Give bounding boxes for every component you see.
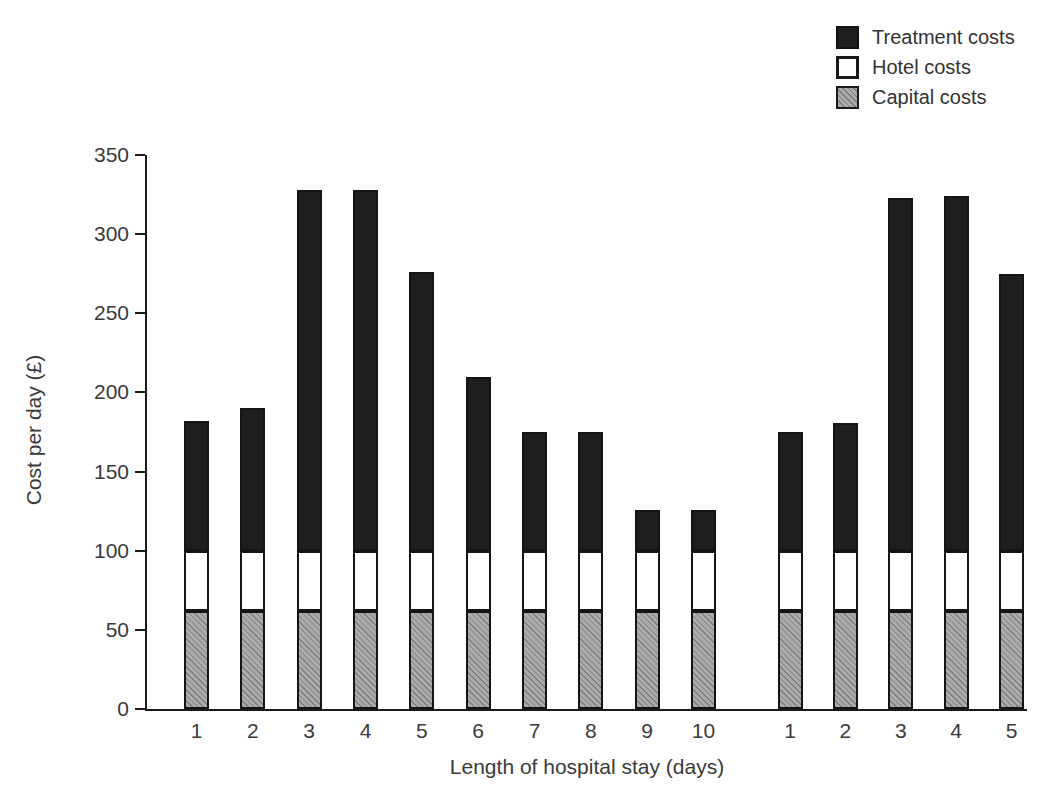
y-tick-mark: [135, 708, 145, 710]
hotel-costs-segment: [833, 551, 858, 611]
y-tick-mark: [135, 233, 145, 235]
plot-area: 050100150200250300350 1234567891012345 C…: [145, 155, 1027, 711]
treatment-costs-segment: [184, 421, 209, 551]
x-tick-label: 1: [768, 719, 812, 743]
x-tick-label: 4: [343, 719, 387, 743]
y-tick-mark: [135, 471, 145, 473]
legend-item-capital: Capital costs: [836, 86, 1015, 109]
hotel-costs-segment: [353, 551, 378, 611]
x-tick-label: 5: [400, 719, 444, 743]
y-tick-label: 250: [69, 302, 129, 324]
capital-costs-segment: [184, 611, 209, 709]
capital-costs-segment: [691, 611, 716, 709]
capital-costs-segment: [635, 611, 660, 709]
y-tick-mark: [135, 391, 145, 393]
legend-item-treatment: Treatment costs: [836, 26, 1015, 49]
capital-costs-segment: [466, 611, 491, 709]
hotel-costs-swatch-icon: [836, 56, 859, 79]
stacked-bar-day-3-group-1: [297, 190, 322, 709]
y-tick-label: 300: [69, 223, 129, 245]
y-tick-label: 0: [69, 698, 129, 720]
y-tick-mark: [135, 629, 145, 631]
capital-costs-segment: [409, 611, 434, 709]
hotel-costs-segment: [999, 551, 1024, 611]
stacked-bar-day-5-group-2: [999, 274, 1024, 709]
capital-costs-segment: [353, 611, 378, 709]
treatment-costs-segment: [522, 432, 547, 551]
stacked-bar-day-1-group-1: [184, 421, 209, 709]
legend-label-hotel: Hotel costs: [872, 56, 971, 79]
x-tick-label: 10: [681, 719, 725, 743]
stacked-bar-day-2-group-2: [833, 423, 858, 709]
treatment-costs-segment: [888, 198, 913, 551]
hotel-costs-segment: [691, 551, 716, 611]
legend-item-hotel: Hotel costs: [836, 56, 1015, 79]
capital-costs-segment: [522, 611, 547, 709]
treatment-costs-segment: [409, 272, 434, 551]
hotel-costs-segment: [240, 551, 265, 611]
x-tick-label: 3: [879, 719, 923, 743]
stacked-bar-day-6-group-1: [466, 377, 491, 709]
x-tick-label: 2: [823, 719, 867, 743]
hotel-costs-segment: [409, 551, 434, 611]
stacked-bar-day-1-group-2: [778, 432, 803, 709]
stacked-bar-day-4-group-2: [944, 196, 969, 709]
capital-costs-segment: [833, 611, 858, 709]
stacked-bar-day-8-group-1: [578, 432, 603, 709]
hotel-costs-segment: [297, 551, 322, 611]
treatment-costs-segment: [778, 432, 803, 551]
stacked-bar-day-9-group-1: [635, 510, 660, 709]
capital-costs-segment: [778, 611, 803, 709]
capital-costs-segment: [999, 611, 1024, 709]
x-tick-label: 6: [456, 719, 500, 743]
x-tick-label: 9: [625, 719, 669, 743]
x-tick-label: 4: [934, 719, 978, 743]
y-tick-label: 200: [69, 381, 129, 403]
y-tick-label: 350: [69, 144, 129, 166]
capital-costs-swatch-icon: [836, 86, 859, 109]
hotel-costs-segment: [778, 551, 803, 611]
treatment-costs-segment: [635, 510, 660, 551]
stacked-bar-day-5-group-1: [409, 272, 434, 709]
y-tick-label: 50: [69, 619, 129, 641]
x-tick-label: 3: [287, 719, 331, 743]
hotel-costs-segment: [184, 551, 209, 611]
stacked-bar-day-7-group-1: [522, 432, 547, 709]
treatment-costs-segment: [297, 190, 322, 551]
chart-legend: Treatment costs Hotel costs Capital cost…: [836, 26, 1015, 116]
hotel-costs-segment: [522, 551, 547, 611]
treatment-costs-segment: [578, 432, 603, 551]
legend-label-capital: Capital costs: [872, 86, 987, 109]
y-tick-mark: [135, 312, 145, 314]
x-axis-title: Length of hospital stay (days): [147, 755, 1027, 779]
hotel-costs-segment: [888, 551, 913, 611]
legend-label-treatment: Treatment costs: [872, 26, 1015, 49]
x-tick-label: 8: [569, 719, 613, 743]
stacked-bar-day-3-group-2: [888, 198, 913, 709]
x-tick-label: 2: [231, 719, 275, 743]
y-axis-title: Cost per day (£): [22, 355, 46, 506]
treatment-costs-swatch-icon: [836, 26, 859, 49]
capital-costs-segment: [240, 611, 265, 709]
treatment-costs-segment: [944, 196, 969, 551]
capital-costs-segment: [297, 611, 322, 709]
capital-costs-segment: [888, 611, 913, 709]
capital-costs-segment: [578, 611, 603, 709]
treatment-costs-segment: [691, 510, 716, 551]
hotel-costs-segment: [578, 551, 603, 611]
x-tick-label: 7: [512, 719, 556, 743]
stacked-bar-chart-figure: Treatment costs Hotel costs Capital cost…: [0, 0, 1050, 811]
y-tick-mark: [135, 154, 145, 156]
capital-costs-segment: [944, 611, 969, 709]
y-tick-label: 150: [69, 461, 129, 483]
stacked-bar-day-10-group-1: [691, 510, 716, 709]
treatment-costs-segment: [833, 423, 858, 551]
y-tick-mark: [135, 550, 145, 552]
x-tick-label: 5: [990, 719, 1034, 743]
stacked-bar-day-4-group-1: [353, 190, 378, 709]
hotel-costs-segment: [466, 551, 491, 611]
stacked-bar-day-2-group-1: [240, 408, 265, 709]
y-tick-label: 100: [69, 540, 129, 562]
treatment-costs-segment: [466, 377, 491, 551]
treatment-costs-segment: [999, 274, 1024, 551]
